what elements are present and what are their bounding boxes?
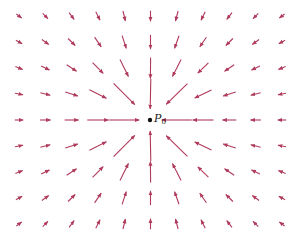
field-arrow [68,39,75,46]
field-arrow [279,14,284,18]
field-arrow [226,39,233,46]
field-arrow [278,171,285,174]
field-arrow [252,170,260,174]
field-arrow [93,63,104,74]
field-arrow [279,196,285,200]
vector-field-diagram [0,0,306,234]
center-point-p0 [148,118,152,122]
field-arrow [15,93,23,95]
field-arrow [150,131,151,161]
field-arrow [67,65,77,71]
field-arrow [225,169,235,175]
field-arrow [195,90,212,98]
field-arrow [15,171,22,174]
center-point-label: P0 [154,113,166,126]
field-arrow [114,135,135,156]
field-arrow [16,196,22,200]
field-arrow [166,84,187,105]
field-arrow [65,144,78,148]
field-arrow [89,90,106,98]
field-arrow [40,145,50,147]
field-arrow [16,40,22,44]
field-arrow [67,169,77,175]
field-arrow [223,92,236,96]
field-arrow [278,93,286,95]
field-arrow [65,92,78,96]
field-arrow [176,11,179,21]
field-arrow [16,14,21,18]
field-arrow [278,145,286,147]
field-arrow [16,222,21,226]
field-arrow [175,36,179,49]
label-subscript: 0 [161,118,165,126]
field-arrow [200,37,207,47]
field-arrow [15,145,23,147]
field-arrow [252,40,259,45]
field-arrow [69,13,74,20]
field-arrow [42,40,49,45]
field-arrow [278,67,285,70]
field-arrow [279,40,285,44]
field-arrow [43,13,48,18]
field-arrow [96,12,100,20]
field-arrow [198,167,209,177]
field-arrow [43,221,48,226]
field-arrow [195,142,212,150]
field-arrow [69,221,74,228]
field-arrow [201,12,205,20]
field-arrow [95,193,102,203]
field-arrow [173,164,182,181]
field-arrow [253,221,258,226]
field-arrow [120,60,128,77]
field-arrow [176,219,179,229]
field-arrow [15,67,22,70]
field-arrow [150,79,151,109]
field-arrow [201,220,205,228]
field-arrow [122,192,126,205]
field-arrow [96,220,100,228]
field-arrow [251,145,261,147]
field-arrow [123,11,125,21]
field-arrow [42,196,49,201]
field-arrow [41,170,49,174]
field-arrow [93,167,104,178]
field-arrow [175,192,179,205]
field-arrow [123,219,125,229]
field-arrow [226,195,233,202]
field-arrow [68,195,75,202]
field-arrow [251,93,261,95]
field-arrow [223,144,236,148]
field-arrow [252,66,260,70]
field-arrow [89,142,106,150]
field-arrow [114,83,135,104]
field-arrow [95,37,102,47]
field-arrow [40,93,50,95]
field-arrow [279,222,284,226]
field-arrow [173,60,182,77]
field-arrow [200,193,207,203]
field-arrow [166,136,187,157]
field-arrow [227,221,232,228]
field-arrow [227,13,232,20]
field-arrow [253,13,258,18]
field-arrow [252,196,259,201]
field-arrow [122,36,126,49]
field-arrow [198,63,209,73]
field-arrow [225,65,235,71]
field-arrow [120,164,128,181]
field-arrow [41,66,49,70]
